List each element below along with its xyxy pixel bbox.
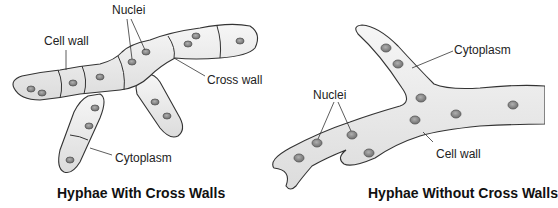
title-without-cross-walls: Hyphae Without Cross Walls <box>368 186 558 200</box>
label-nuclei-left: Nuclei <box>112 4 145 16</box>
label-cell-wall-left: Cell wall <box>44 35 89 47</box>
label-cross-wall: Cross wall <box>207 74 262 86</box>
title-with-cross-walls: Hyphae With Cross Walls <box>57 186 225 200</box>
label-cytoplasm-right: Cytoplasm <box>454 44 511 56</box>
middle-branch <box>136 74 183 137</box>
label-nuclei-right: Nuclei <box>313 89 346 101</box>
label-cytoplasm-left: Cytoplasm <box>115 152 172 164</box>
label-cell-wall-right: Cell wall <box>436 148 481 160</box>
